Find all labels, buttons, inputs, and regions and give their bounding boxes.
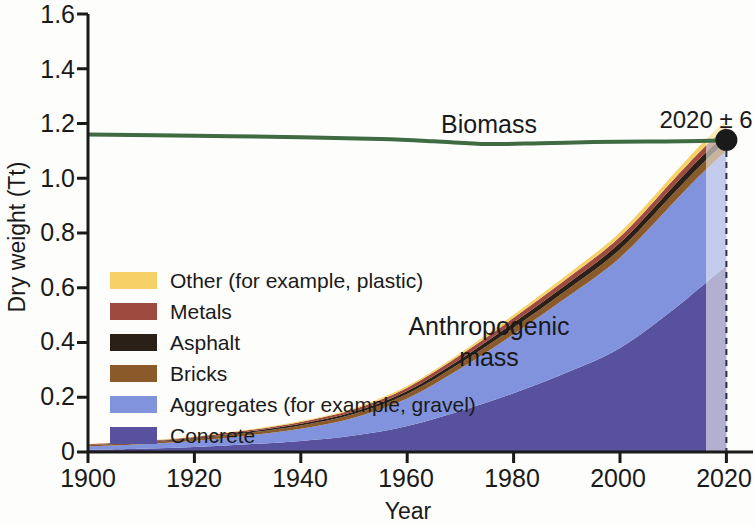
y-tick-label: 0.8 bbox=[40, 218, 75, 246]
chart-container: 1.6 1.4 1.2 1.0 0.8 0.6 0.4 0.2 0 1900 1… bbox=[0, 0, 755, 526]
y-axis-ticks bbox=[77, 14, 88, 452]
y-tick-label: 0 bbox=[61, 437, 75, 465]
x-tick-label: 2020 bbox=[696, 464, 752, 492]
biomass-series-label: Biomass bbox=[441, 110, 537, 138]
anthropogenic-series-label-line1: Anthropogenic bbox=[408, 312, 569, 340]
biomass-line-path bbox=[88, 134, 726, 144]
x-tick-label: 1920 bbox=[166, 464, 222, 492]
x-axis-title: Year bbox=[385, 498, 432, 524]
x-tick-label: 1960 bbox=[378, 464, 434, 492]
x-tick-label: 2000 bbox=[590, 464, 646, 492]
y-axis-title: Dry weight (Tt) bbox=[4, 162, 30, 313]
y-tick-label: 0.6 bbox=[40, 273, 75, 301]
crossing-point-annotation: 2020 ± 6 bbox=[659, 106, 752, 133]
x-tick-label: 1940 bbox=[272, 464, 328, 492]
legend-swatch bbox=[110, 427, 157, 444]
legend-label: Aggregates (for example, gravel) bbox=[170, 393, 476, 416]
legend-swatch bbox=[110, 365, 157, 382]
x-axis-ticks bbox=[88, 452, 726, 463]
legend-swatch bbox=[110, 272, 157, 289]
y-tick-label: 1.2 bbox=[40, 109, 75, 137]
legend-label: Other (for example, plastic) bbox=[170, 269, 423, 292]
biomass-line bbox=[88, 134, 726, 144]
y-tick-label: 1.6 bbox=[40, 0, 75, 28]
anthropogenic-mass-chart: 1.6 1.4 1.2 1.0 0.8 0.6 0.4 0.2 0 1900 1… bbox=[0, 0, 755, 526]
y-tick-label: 0.4 bbox=[40, 327, 75, 355]
legend-label: Bricks bbox=[170, 362, 227, 385]
y-tick-label: 1.0 bbox=[40, 164, 75, 192]
legend-label: Concrete bbox=[170, 424, 255, 447]
anthropogenic-series-label-line2: mass bbox=[459, 343, 519, 371]
legend-swatch bbox=[110, 334, 157, 351]
legend-label: Metals bbox=[170, 300, 232, 323]
y-tick-label: 0.2 bbox=[40, 382, 75, 410]
x-tick-label: 1980 bbox=[484, 464, 540, 492]
x-tick-label: 1900 bbox=[60, 464, 116, 492]
legend-swatch bbox=[110, 303, 157, 320]
y-tick-label: 1.4 bbox=[40, 55, 75, 83]
legend-swatch bbox=[110, 396, 157, 413]
legend-label: Asphalt bbox=[170, 331, 240, 354]
